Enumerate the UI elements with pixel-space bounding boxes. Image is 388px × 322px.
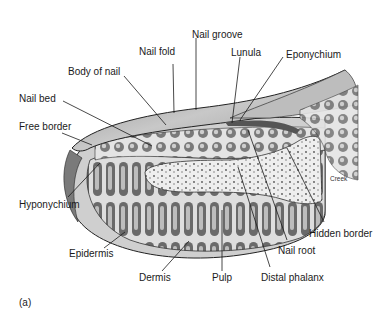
label-nail-groove: Nail groove bbox=[192, 30, 243, 40]
label-distal-phalanx: Distal phalanx bbox=[261, 273, 324, 283]
label-nail-bed: Nail bed bbox=[19, 94, 56, 104]
label-dermis: Dermis bbox=[139, 273, 171, 283]
label-free-border: Free border bbox=[19, 122, 71, 132]
label-nail-fold: Nail fold bbox=[139, 47, 175, 57]
label-body-of-nail: Body of nail bbox=[68, 67, 120, 77]
label-hidden-border: Hidden border bbox=[309, 229, 372, 239]
label-nail-root: Nail root bbox=[278, 246, 315, 256]
watermark-text: Creek bbox=[330, 176, 347, 183]
label-eponychium: Eponychium bbox=[286, 50, 341, 60]
panel-label: (a) bbox=[19, 298, 31, 308]
label-hyponychium: Hyponychium bbox=[19, 200, 80, 210]
label-epidermis: Epidermis bbox=[69, 249, 113, 259]
label-pulp: Pulp bbox=[212, 273, 232, 283]
label-lunula: Lunula bbox=[231, 48, 261, 58]
